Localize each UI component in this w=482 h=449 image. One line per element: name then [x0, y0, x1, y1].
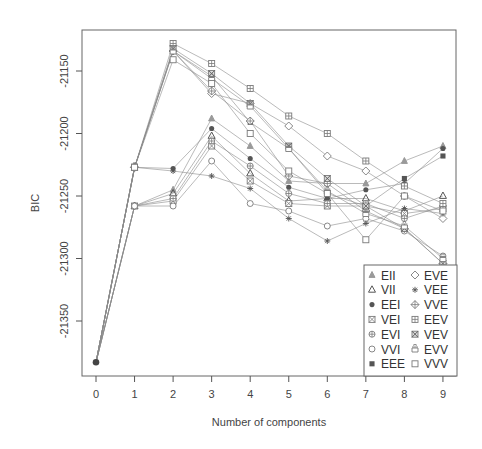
eei-marker-icon: [363, 187, 368, 192]
eev-marker-icon: [440, 201, 446, 207]
eev-marker-icon: [209, 61, 215, 67]
origin-point-icon: [93, 359, 100, 366]
evi-marker-icon: [286, 191, 292, 197]
legend-label: VVE: [424, 298, 448, 312]
x-tick-label: 0: [93, 388, 99, 400]
legend-label: VEI: [381, 313, 400, 327]
legend-label: EVI: [381, 328, 400, 342]
vvv-marker-icon: [401, 193, 407, 199]
x-tick-label: 5: [286, 388, 292, 400]
legend-vev-marker-icon: [412, 331, 418, 337]
x-axis-title: Number of components: [212, 416, 327, 428]
vee-marker-icon: [363, 221, 369, 227]
vvi-marker-icon: [170, 203, 176, 209]
y-axis: -21150-21200-21250-21300-21350: [58, 54, 82, 338]
legend-vvv-marker-icon: [412, 361, 418, 367]
legend-label: VVI: [381, 343, 400, 357]
eii-marker-icon: [247, 143, 253, 149]
evi-marker-icon: [209, 138, 215, 144]
eve-marker-icon: [285, 122, 293, 130]
vii-marker-icon: [247, 170, 254, 176]
legend-vei-marker-icon: [369, 316, 375, 322]
legend-label: EEI: [381, 298, 400, 312]
legend: EIIVIIEEIVEIEVIVVIEEEEVEVEEVVEEEVVEVEVVV…: [364, 265, 457, 376]
legend-vvi-marker-icon: [369, 346, 375, 352]
vvi-marker-icon: [247, 201, 253, 207]
vvv-marker-icon: [170, 57, 176, 63]
legend-evi-marker-icon: [369, 331, 375, 337]
vee-marker-icon: [247, 186, 253, 192]
evv-marker-icon: [401, 222, 407, 230]
x-tick-label: 2: [170, 388, 176, 400]
legend-label: EEV: [424, 313, 448, 327]
x-tick-label: 9: [440, 388, 446, 400]
legend-label: EVE: [424, 269, 448, 283]
eev-marker-icon: [363, 158, 369, 164]
eev-marker-icon: [286, 113, 292, 119]
vvv-marker-icon: [132, 164, 138, 170]
vvv-marker-icon: [363, 237, 369, 243]
vii-marker-icon: [208, 132, 215, 138]
x-tick-label: 7: [363, 388, 369, 400]
eii-marker-icon: [209, 115, 215, 121]
vvi-marker-icon: [209, 158, 215, 164]
evi-marker-icon: [324, 201, 330, 207]
series-points-vev: [132, 46, 446, 267]
eev-marker-icon: [401, 183, 407, 189]
legend-label: VEE: [424, 283, 448, 297]
legend-label: VEV: [424, 328, 448, 342]
eei-marker-icon: [286, 185, 291, 190]
legend-label: EVV: [424, 343, 448, 357]
vev-marker-icon: [209, 71, 215, 77]
eei-marker-icon: [248, 156, 253, 161]
y-tick-label: -21150: [58, 54, 70, 87]
x-tick-label: 8: [401, 388, 407, 400]
x-tick-label: 4: [247, 388, 253, 400]
evi-marker-icon: [170, 196, 176, 202]
vvi-marker-icon: [286, 208, 292, 214]
eev-marker-icon: [324, 131, 330, 137]
legend-label: VII: [381, 283, 396, 297]
vvv-marker-icon: [440, 208, 446, 214]
vii-marker-icon: [439, 192, 446, 198]
legend-eev-marker-icon: [412, 316, 418, 322]
eee-marker-icon: [402, 176, 407, 181]
vee-marker-icon: [209, 173, 215, 179]
vvi-marker-icon: [132, 203, 138, 209]
x-tick-label: 6: [324, 388, 330, 400]
y-tick-label: -21250: [58, 179, 70, 213]
vei-marker-icon: [286, 201, 292, 207]
y-tick-label: -21350: [58, 304, 70, 338]
y-tick-label: -21200: [58, 116, 70, 150]
eve-marker-icon: [362, 167, 370, 175]
series-points-vve: [131, 47, 447, 268]
legend-eei-marker-icon: [369, 302, 374, 307]
eev-marker-icon: [247, 86, 253, 92]
vee-marker-icon: [401, 206, 407, 212]
legend-label: EII: [381, 269, 396, 283]
vei-marker-icon: [247, 178, 253, 184]
bic-chart: 0123456789 -21150-21200-21250-21300-2135…: [0, 0, 482, 449]
eei-marker-icon: [209, 126, 214, 131]
vvv-marker-icon: [324, 191, 330, 197]
eii-marker-icon: [363, 180, 369, 186]
legend-label: VVV: [424, 357, 448, 371]
vvi-marker-icon: [324, 223, 330, 229]
vvv-marker-icon: [286, 168, 292, 174]
vvv-marker-icon: [247, 131, 253, 137]
x-tick-label: 3: [209, 388, 215, 400]
vii-marker-icon: [362, 195, 369, 201]
evi-marker-icon: [247, 163, 253, 169]
vee-marker-icon: [324, 238, 330, 244]
x-axis: 0123456789: [93, 376, 446, 400]
x-tick-label: 1: [131, 388, 137, 400]
eei-marker-icon: [440, 146, 445, 151]
y-axis-title: BIC: [29, 194, 41, 212]
eee-marker-icon: [440, 153, 445, 158]
legend-eee-marker-icon: [369, 361, 374, 366]
vev-marker-icon: [324, 176, 330, 182]
y-tick-label: -21300: [58, 241, 70, 275]
evi-marker-icon: [401, 216, 407, 222]
eve-marker-icon: [323, 152, 331, 160]
legend-label: EEE: [381, 357, 405, 371]
